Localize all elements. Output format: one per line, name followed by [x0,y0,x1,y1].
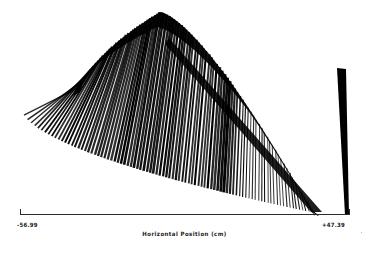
x-axis-left-label: -56.99 [17,222,38,228]
wiggle-trace [270,141,271,203]
wiggle-trace [255,120,256,200]
wiggle-trace [259,124,260,201]
wiggle-trace [252,116,254,199]
wiggle-trace [278,154,280,205]
x-axis-right-label: +47.39 [322,222,345,228]
wiggle-trace [272,145,274,204]
corner-artifact [361,232,362,233]
wiggle-trace-canvas [0,0,369,220]
trace-group [24,12,322,216]
x-axis-caption: Horizontal Position (cm) [0,231,369,237]
isolated-wedge [337,68,349,215]
plot-area [0,0,369,220]
isolated-trace-wedge [337,68,349,215]
wiggle-trace [276,150,278,205]
wiggle-trace [246,108,248,198]
seismic-wiggle-figure: -56.99 +47.39 Horizontal Position (cm) [0,0,369,257]
wiggle-trace [249,112,251,199]
